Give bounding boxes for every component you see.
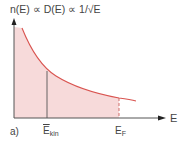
diagram-title: n(E) ∝ D(E) ∝ 1/√E (10, 4, 101, 15)
mean-kinetic-energy-label: Ekin (43, 126, 59, 136)
x-axis-label: E (170, 113, 177, 124)
x-axis-arrow-icon (158, 116, 166, 121)
area-under-curve (14, 27, 119, 118)
y-axis-arrow-icon (12, 18, 17, 25)
panel-label: a) (10, 127, 19, 137)
density-plot (0, 0, 184, 144)
fermi-energy-label: EF (115, 126, 126, 136)
